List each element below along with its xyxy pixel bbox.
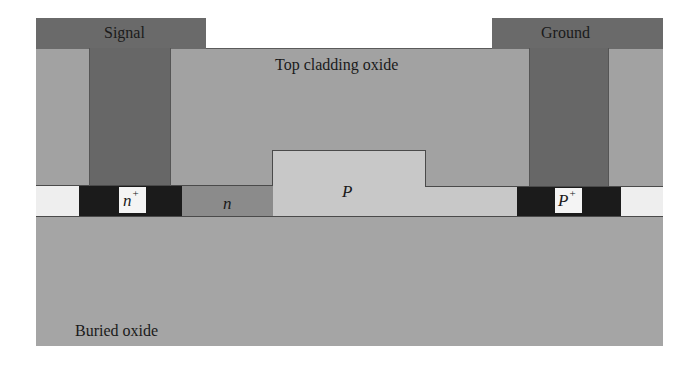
signal-label: Signal	[104, 25, 145, 41]
signal-electrode-via	[89, 48, 171, 186]
right-cladding	[609, 48, 663, 186]
diagram-canvas: Buried oxide Top cladding oxide Signal G…	[0, 0, 691, 368]
rib-right-line	[425, 150, 426, 187]
n-plus-text: n	[123, 191, 132, 210]
device-bottom-line	[36, 216, 663, 217]
device-top-line	[36, 185, 273, 186]
ground-via-right-line	[608, 48, 609, 186]
p-plus-label: P+	[558, 192, 576, 209]
p-plus-text: P	[558, 191, 568, 210]
signal-via-left-line	[89, 48, 90, 186]
buried-oxide-label: Buried oxide	[75, 323, 158, 339]
top-cladding-label: Top cladding oxide	[275, 57, 398, 73]
ground-electrode-via	[529, 48, 609, 186]
rib-left-line	[272, 150, 273, 186]
ground-via-left-line	[529, 48, 530, 186]
device-top-line-right	[425, 186, 663, 187]
right-slab-region	[621, 186, 663, 216]
ground-label: Ground	[541, 25, 590, 41]
n-plus-label: n+	[123, 192, 139, 209]
signal-via-right-line	[170, 48, 171, 186]
p-plus-superscript: +	[569, 187, 575, 199]
p-region-slab	[273, 186, 517, 216]
left-cladding	[36, 48, 89, 186]
left-slab-region	[36, 186, 79, 216]
n-plus-superscript: +	[133, 187, 139, 199]
rib-top-line	[273, 150, 426, 151]
n-label: n	[223, 195, 232, 212]
p-label: P	[342, 183, 352, 200]
